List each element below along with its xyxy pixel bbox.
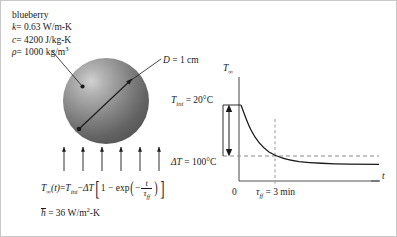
chart-tau-symbol: τff xyxy=(256,187,263,197)
chart-delta-t-label: ΔT = 100°C xyxy=(171,157,216,167)
chart-delta-t-symbol: ΔT xyxy=(171,157,182,167)
chart-y-axis-subscript: ∞ xyxy=(228,68,233,75)
chart-time-constant-label: τff = 3 min xyxy=(256,187,295,199)
chart-decay-curve xyxy=(241,105,379,164)
chart-y-axis-label: T∞ xyxy=(223,63,233,73)
chart-tini-label: Tini = 20°C xyxy=(171,95,213,105)
chart-tini-value: = 20°C xyxy=(186,95,213,105)
figure-canvas: blueberry k= 0.63 W/m-K c= 4200 J/kg-K ρ… xyxy=(0,0,397,237)
temperature-decay-chart xyxy=(1,1,397,237)
chart-tini-subscript: ini xyxy=(176,100,183,107)
chart-delta-t-arrowhead-bottom xyxy=(226,149,232,157)
chart-delta-t-value: = 100°C xyxy=(184,157,216,167)
chart-delta-t-arrowhead-top xyxy=(226,105,232,113)
chart-x-tick-zero: 0 xyxy=(232,187,237,197)
chart-tau-value: = 3 min xyxy=(265,187,295,197)
chart-x-axis-label: t xyxy=(382,171,385,181)
